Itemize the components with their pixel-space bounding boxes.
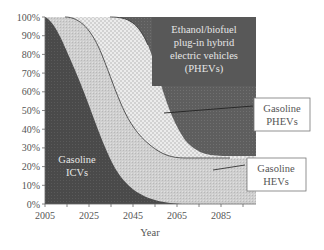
x-tick-2005: 2005 (35, 210, 55, 221)
stacked-area-chart: Ethanol/biofuel plug-in hybrid electric … (0, 0, 324, 250)
y-tick-10: 10% (22, 180, 40, 191)
y-tick-60: 60% (22, 86, 40, 97)
y-tick-0: 0% (27, 199, 40, 210)
hev-callout: Gasoline HEVs (247, 158, 306, 191)
plot-area: Ethanol/biofuel plug-in hybrid electric … (45, 17, 256, 204)
x-tick-2045: 2045 (123, 210, 143, 221)
phev-callout-line-2: PHEVs (266, 116, 298, 127)
ethanol-label-line-4: (PHEVs) (185, 63, 224, 75)
ethanol-label-line-1: Ethanol/biofuel (171, 24, 236, 35)
icv-label-line-1: Gasoline (58, 154, 96, 165)
hev-callout-line-2: HEVs (263, 176, 289, 187)
y-tick-100: 100% (17, 12, 40, 23)
x-tick-2085: 2085 (211, 210, 231, 221)
y-tick-20: 20% (22, 161, 40, 172)
x-axis: 2005 2025 2045 2065 2085 Year (35, 204, 256, 238)
y-tick-50: 50% (22, 105, 40, 116)
x-axis-title: Year (140, 227, 160, 238)
ethanol-label-line-2: plug-in hybrid (174, 37, 235, 48)
y-tick-70: 70% (22, 68, 40, 79)
phev-callout: Gasoline PHEVs (254, 98, 310, 131)
hev-callout-line-1: Gasoline (257, 163, 295, 174)
y-axis: 100% 90% 80% 70% 60% 50% 40% 30% 20% 10%… (17, 12, 45, 210)
y-tick-30: 30% (22, 142, 40, 153)
x-tick-2025: 2025 (79, 210, 99, 221)
ethanol-label-line-3: electric vehicles (170, 50, 238, 61)
phev-callout-line-1: Gasoline (263, 103, 301, 114)
x-tick-2065: 2065 (167, 210, 187, 221)
y-tick-40: 40% (22, 124, 40, 135)
y-tick-80: 80% (22, 49, 40, 60)
y-tick-90: 90% (22, 30, 40, 41)
icv-label-line-2: ICVs (66, 167, 88, 178)
